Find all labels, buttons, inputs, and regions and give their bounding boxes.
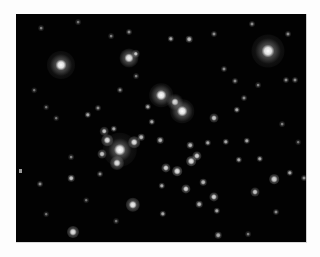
star — [211, 31, 217, 37]
star — [100, 127, 109, 136]
star — [209, 192, 218, 201]
star — [126, 198, 140, 212]
star — [157, 137, 164, 144]
star-cluster-photo — [16, 14, 307, 243]
star — [126, 29, 132, 35]
star — [181, 184, 190, 193]
star — [85, 112, 91, 118]
star — [68, 154, 74, 160]
star — [138, 134, 145, 141]
star — [133, 73, 139, 79]
star — [232, 78, 238, 84]
star — [31, 87, 37, 93]
star — [236, 157, 242, 163]
stray-mark — [19, 169, 22, 173]
star — [186, 156, 196, 166]
star — [234, 107, 240, 113]
star — [215, 232, 222, 239]
star — [205, 140, 211, 146]
star — [67, 226, 79, 238]
star — [244, 138, 250, 144]
star — [200, 179, 207, 186]
star — [113, 218, 119, 224]
star — [47, 51, 75, 79]
star — [68, 175, 75, 182]
star — [159, 183, 165, 189]
star — [245, 231, 251, 237]
star — [149, 119, 155, 125]
star — [269, 174, 279, 184]
star — [110, 156, 124, 170]
star — [279, 121, 285, 127]
star — [210, 114, 219, 123]
star — [95, 105, 101, 111]
star — [37, 181, 43, 187]
star — [241, 95, 247, 101]
star — [273, 209, 279, 215]
star — [187, 142, 194, 149]
star — [221, 66, 227, 72]
star — [43, 104, 49, 110]
star — [214, 208, 220, 214]
star — [283, 77, 289, 83]
star — [295, 139, 301, 145]
star — [160, 211, 166, 217]
star — [43, 211, 49, 217]
star — [117, 87, 123, 93]
star — [196, 201, 203, 208]
star — [38, 25, 44, 31]
star — [249, 21, 255, 27]
star — [75, 19, 81, 25]
star — [257, 156, 263, 162]
star — [108, 33, 114, 39]
star — [172, 166, 182, 176]
star — [186, 36, 193, 43]
star — [301, 175, 307, 181]
star — [145, 104, 151, 110]
star — [168, 36, 174, 42]
star — [53, 115, 59, 121]
star — [101, 134, 113, 146]
star — [161, 163, 170, 172]
star — [98, 150, 107, 159]
star — [255, 82, 261, 88]
star — [252, 35, 285, 68]
star — [97, 171, 103, 177]
star — [132, 50, 140, 58]
star — [170, 99, 194, 123]
star — [111, 126, 117, 132]
star — [287, 170, 293, 176]
star — [292, 77, 298, 83]
star — [285, 31, 291, 37]
star — [83, 197, 89, 203]
star — [251, 188, 260, 197]
star — [223, 139, 229, 145]
